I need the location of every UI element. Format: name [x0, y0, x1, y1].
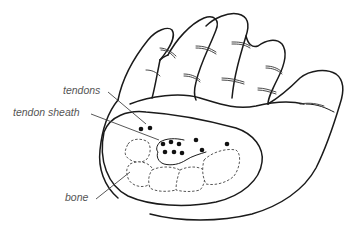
label-tendons: tendons: [63, 84, 100, 96]
label-tendon-sheath: tendon sheath: [13, 106, 80, 118]
bone-5: [203, 149, 240, 184]
label-bone: bone: [65, 191, 88, 203]
bone-4: [176, 167, 205, 192]
hand-outline: [100, 14, 343, 220]
bone-3: [149, 167, 181, 191]
carpal-bones: [125, 139, 239, 191]
bone-1: [125, 139, 150, 162]
hand-anatomy-diagram: tendons tendon sheath bone: [0, 0, 354, 226]
